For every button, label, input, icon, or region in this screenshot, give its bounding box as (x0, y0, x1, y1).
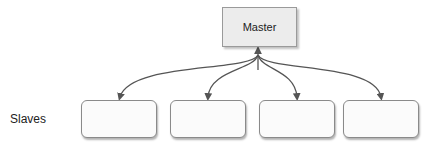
slave-node-4 (343, 100, 419, 138)
master-label: Master (243, 21, 277, 33)
slave-node-2 (170, 100, 246, 138)
slave-node-1 (81, 100, 157, 138)
master-node: Master (222, 7, 297, 47)
slave-node-3 (259, 100, 335, 138)
slaves-label: Slaves (10, 112, 46, 126)
